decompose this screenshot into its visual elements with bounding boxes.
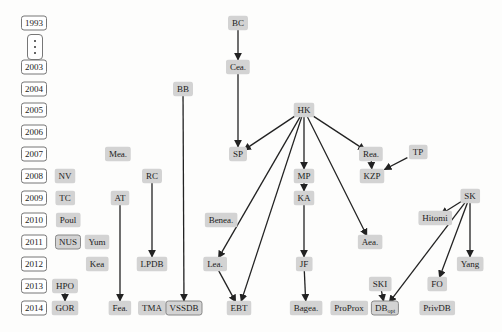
node-rea: Rea. (359, 147, 383, 162)
node-privdb: PrivDB (419, 301, 455, 316)
node-rc: RC (142, 169, 162, 184)
node-ebt: EBT (227, 301, 252, 316)
node-ka: KA (294, 191, 315, 206)
node-lea: Lea. (203, 257, 227, 272)
node-hpo: HPO (52, 279, 78, 294)
node-sp: SP (229, 147, 247, 162)
year-label-2014: 2014 (21, 301, 47, 316)
year-label-1993: 1993 (21, 16, 47, 31)
year-label-2011: 2011 (21, 235, 47, 250)
node-fea: Fea. (108, 301, 131, 316)
node-jf: JF (296, 257, 313, 272)
node-cea: Cea. (226, 60, 250, 75)
node-bagea: Bagea. (290, 301, 323, 316)
node-bc: BC (228, 16, 248, 31)
edge-lea-to-ebt (218, 270, 235, 302)
node-nus: NUS (55, 235, 81, 250)
node-yum: Yum (84, 235, 109, 250)
year-label-2004: 2004 (21, 82, 47, 97)
year-label-2009: 2009 (21, 191, 47, 206)
node-aea: Aea. (358, 235, 383, 250)
year-label-2003: 2003 (21, 60, 47, 75)
node-gor: GOR (51, 301, 78, 316)
node-tc: TC (55, 191, 75, 206)
node-kzp: KZP (359, 169, 384, 184)
node-dbopt: DBopt (371, 301, 399, 316)
year-gap-marker (27, 34, 43, 60)
edge-bb-to-vssdb (183, 96, 184, 301)
node-hk: HK (294, 103, 315, 118)
edge-tp-to-kzp (384, 158, 407, 170)
node-lpdb: LPDB (136, 257, 167, 272)
node-hitomi: Hitomi (418, 211, 452, 226)
node-yang: Yang (457, 257, 484, 272)
node-tp: TP (409, 145, 428, 160)
node-mea: Mea. (105, 147, 131, 162)
edge-jf-to-bagea (304, 271, 305, 301)
node-mp: MP (293, 169, 314, 184)
year-label-2008: 2008 (21, 169, 47, 184)
node-fo: FO (427, 277, 447, 292)
timeline-diagram: 1993200320042005200620072008200920102011… (0, 0, 502, 332)
year-label-2005: 2005 (21, 103, 47, 118)
edge-hk-to-lea (219, 116, 301, 258)
node-poul: Poul (56, 213, 81, 228)
year-label-2006: 2006 (21, 125, 47, 140)
node-tma: TMA (138, 301, 166, 316)
edge-hk-to-rea (310, 114, 365, 150)
node-sk: SK (460, 189, 480, 204)
year-label-2013: 2013 (21, 279, 47, 294)
edge-hk-to-aea (307, 116, 367, 235)
edge-hk-to-ebt (241, 117, 302, 302)
node-vssdb: VSSDB (165, 301, 202, 316)
node-nv: NV (55, 169, 76, 184)
edge-hk-to-sp (244, 114, 298, 150)
node-benea: Benea. (205, 213, 238, 228)
node-bb: BB (173, 82, 193, 97)
node-proprox: ProProx (330, 301, 368, 316)
node-ski: SKI (369, 277, 392, 292)
year-label-2012: 2012 (21, 257, 47, 272)
year-label-2010: 2010 (21, 213, 47, 228)
node-at: AT (111, 191, 130, 206)
year-label-2007: 2007 (21, 147, 47, 162)
node-kea: Kea (86, 257, 109, 272)
